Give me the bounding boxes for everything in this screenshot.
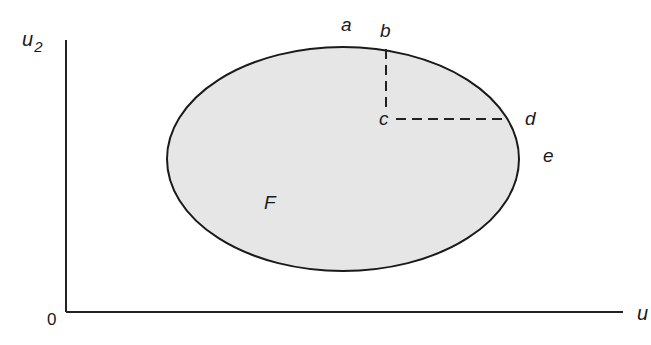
origin-label: 0 <box>47 310 56 329</box>
region-label-f: F <box>264 192 277 213</box>
point-label-b: b <box>380 20 391 41</box>
region-f-ellipse <box>167 47 519 271</box>
point-label-a: a <box>341 14 352 35</box>
point-label-d: d <box>525 108 537 129</box>
x-axis-label: u <box>637 302 648 324</box>
diagram-canvas: u2 u 0 a b c d e F <box>0 0 651 345</box>
point-label-e: e <box>543 145 554 166</box>
y-axis-label-subscript: 2 <box>33 38 43 55</box>
point-label-c: c <box>379 108 389 129</box>
y-axis-label: u2 <box>22 28 43 55</box>
